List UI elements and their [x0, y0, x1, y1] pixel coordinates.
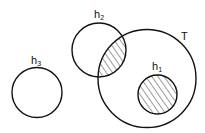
- label-h3: h3: [31, 54, 41, 67]
- circle-h3: [12, 68, 62, 118]
- label-h2: h2: [94, 8, 104, 21]
- label-t: T: [181, 30, 188, 42]
- label-h1: h1: [152, 60, 162, 73]
- venn-diagram: h3 h2 T h1: [0, 0, 205, 133]
